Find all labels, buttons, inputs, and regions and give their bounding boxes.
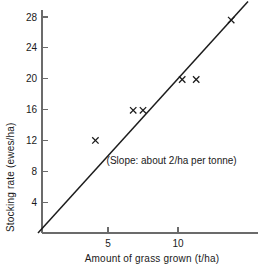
- y-tick-label: 16: [26, 104, 38, 115]
- axes-group: [42, 10, 258, 233]
- y-axis-title: Stocking rate (ewes/ha): [5, 122, 16, 232]
- y-tick-label: 20: [26, 73, 38, 84]
- scatter-plot: 481216202428 510 (Slope: about 2/ha per …: [0, 0, 261, 270]
- x-tick-label: 10: [172, 238, 184, 249]
- data-point: [92, 137, 98, 143]
- x-axis-ticks: 510: [105, 227, 184, 249]
- trend-line: [38, 2, 248, 233]
- data-point: [140, 107, 146, 113]
- y-tick-label: 8: [31, 166, 37, 177]
- trend-line-group: [38, 2, 248, 233]
- x-tick-label: 5: [105, 238, 111, 249]
- data-point: [193, 76, 199, 82]
- data-point: [179, 76, 185, 82]
- data-point: [228, 17, 234, 23]
- y-axis-ticks: 481216202428: [26, 12, 48, 208]
- chart-figure: 481216202428 510 (Slope: about 2/ha per …: [0, 0, 261, 270]
- slope-annotation: (Slope: about 2/ha per tonne): [107, 155, 237, 166]
- y-tick-label: 28: [26, 12, 38, 23]
- data-point-markers: [92, 17, 234, 144]
- y-tick-label: 4: [31, 197, 37, 208]
- y-tick-label: 24: [26, 42, 38, 53]
- x-axis-title: Amount of grass grown (t/ha): [85, 253, 220, 264]
- data-point: [130, 107, 136, 113]
- y-tick-label: 12: [26, 135, 38, 146]
